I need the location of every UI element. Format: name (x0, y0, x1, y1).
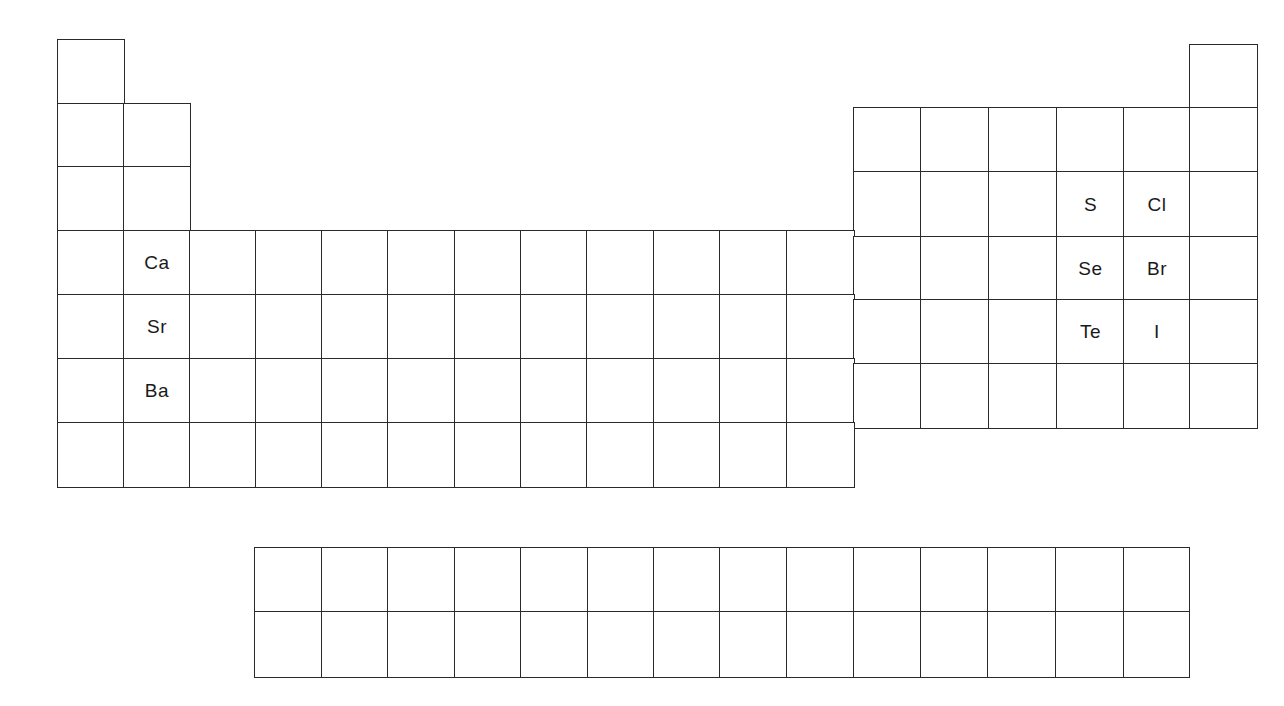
element-cell-p6-g17 (1123, 363, 1191, 429)
element-cell-p5-g2: Sr (123, 294, 191, 360)
element-cell-p4-g13 (853, 236, 922, 301)
f-block-cell-r2-c2 (321, 611, 389, 678)
f-block-cell-r2-c3 (387, 611, 456, 678)
element-cell-p5-g12 (786, 294, 855, 360)
f-block-cell-r1-c8 (719, 547, 788, 613)
element-cell-p6-g13 (853, 363, 922, 429)
element-cell-p6-g16 (1056, 363, 1125, 429)
f-block-cell-r1-c10 (853, 547, 922, 613)
element-symbol: Ca (144, 253, 169, 272)
element-cell-p3-g13 (853, 171, 922, 238)
element-cell-p4-g18 (1189, 236, 1258, 301)
element-cell-p6-g4 (255, 358, 323, 424)
element-cell-p5-g5 (321, 294, 389, 360)
element-cell-p6-g6 (387, 358, 456, 424)
element-cell-p1-g1 (57, 39, 125, 105)
element-cell-p1-g18 (1189, 44, 1258, 109)
element-cell-p7-g10 (653, 422, 721, 488)
f-block-cell-r1-c12 (987, 547, 1057, 613)
element-cell-p7-g2 (123, 422, 191, 488)
f-block-cell-r2-c14 (1123, 611, 1190, 678)
element-cell-p4-g8 (520, 230, 588, 296)
element-cell-p6-g18 (1189, 363, 1258, 429)
element-cell-p3-g17: Cl (1123, 171, 1191, 238)
f-block-cell-r2-c11 (920, 611, 989, 678)
element-cell-p5-g18 (1189, 299, 1258, 365)
element-cell-p4-g10 (653, 230, 721, 296)
f-block-cell-r1-c4 (454, 547, 522, 613)
element-cell-p7-g12 (786, 422, 855, 488)
element-cell-p6-g2: Ba (123, 358, 191, 424)
f-block-cell-r2-c8 (719, 611, 788, 678)
element-cell-p3-g18 (1189, 171, 1258, 238)
element-cell-p7-g1 (57, 422, 125, 488)
element-cell-p6-g14 (920, 363, 990, 429)
element-cell-p4-g2: Ca (123, 230, 191, 296)
element-cell-p3-g16: S (1056, 171, 1125, 238)
element-cell-p4-g4 (255, 230, 323, 296)
element-cell-p6-g5 (321, 358, 389, 424)
f-block-cell-r2-c12 (987, 611, 1057, 678)
f-block-cell-r2-c1 (254, 611, 323, 678)
f-block-cell-r2-c13 (1055, 611, 1125, 678)
element-cell-p7-g5 (321, 422, 389, 488)
f-block-cell-r1-c11 (920, 547, 989, 613)
element-cell-p5-g17: I (1123, 299, 1191, 365)
element-cell-p4-g1 (57, 230, 125, 296)
element-cell-p4-g14 (920, 236, 990, 301)
element-cell-p7-g6 (387, 422, 456, 488)
element-cell-p4-g16: Se (1056, 236, 1125, 301)
element-cell-p7-g7 (454, 422, 522, 488)
element-cell-p2-g1 (57, 103, 125, 168)
element-cell-p6-g7 (454, 358, 522, 424)
f-block-cell-r1-c7 (653, 547, 721, 613)
element-symbol: Cl (1148, 195, 1167, 214)
element-cell-p5-g16: Te (1056, 299, 1125, 365)
element-symbol: I (1154, 322, 1160, 341)
element-cell-p4-g15 (988, 236, 1058, 301)
element-cell-p5-g7 (454, 294, 522, 360)
element-cell-p4-g3 (189, 230, 257, 296)
element-symbol: Ba (145, 381, 169, 400)
element-cell-p6-g10 (653, 358, 721, 424)
element-symbol: Sr (147, 317, 167, 336)
element-cell-p5-g4 (255, 294, 323, 360)
element-symbol: Br (1147, 259, 1167, 278)
element-cell-p6-g11 (719, 358, 788, 424)
element-cell-p6-g15 (988, 363, 1058, 429)
element-cell-p4-g5 (321, 230, 389, 296)
element-cell-p5-g1 (57, 294, 125, 360)
element-cell-p5-g10 (653, 294, 721, 360)
element-cell-p5-g6 (387, 294, 456, 360)
element-cell-p4-g9 (586, 230, 655, 296)
element-cell-p4-g17: Br (1123, 236, 1191, 301)
element-cell-p6-g9 (586, 358, 655, 424)
f-block-cell-r1-c2 (321, 547, 389, 613)
element-cell-p5-g14 (920, 299, 990, 365)
element-cell-p4-g12 (786, 230, 855, 296)
element-cell-p7-g3 (189, 422, 257, 488)
f-block-cell-r1-c6 (587, 547, 655, 613)
f-block-cell-r1-c13 (1055, 547, 1125, 613)
element-cell-p4-g6 (387, 230, 456, 296)
element-cell-p7-g9 (586, 422, 655, 488)
element-cell-p3-g14 (920, 171, 990, 238)
element-cell-p2-g15 (988, 107, 1058, 173)
element-cell-p2-g18 (1189, 107, 1258, 173)
f-block-cell-r2-c9 (786, 611, 855, 678)
element-cell-p5-g11 (719, 294, 788, 360)
element-cell-p3-g2 (123, 166, 191, 232)
f-block-cell-r1-c5 (520, 547, 589, 613)
element-cell-p3-g15 (988, 171, 1058, 238)
f-block-cell-r1-c14 (1123, 547, 1190, 613)
element-cell-p5-g3 (189, 294, 257, 360)
element-cell-p6-g12 (786, 358, 855, 424)
element-symbol: Se (1078, 259, 1102, 278)
element-cell-p5-g15 (988, 299, 1058, 365)
element-cell-p6-g1 (57, 358, 125, 424)
f-block-cell-r1-c1 (254, 547, 323, 613)
element-cell-p2-g14 (920, 107, 990, 173)
element-cell-p5-g13 (853, 299, 922, 365)
element-cell-p2-g2 (123, 103, 191, 168)
element-cell-p4-g7 (454, 230, 522, 296)
